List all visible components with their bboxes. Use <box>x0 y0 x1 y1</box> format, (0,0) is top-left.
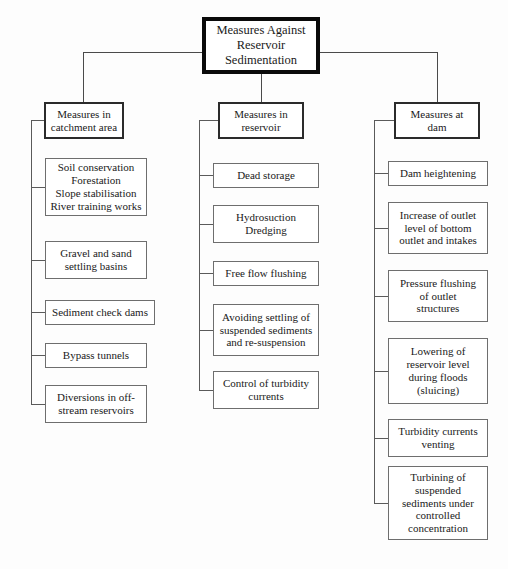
leaf-avoiding-settling-of-suspended-sediments: Avoiding settling of suspended sediments… <box>213 304 319 356</box>
branch-3-stub-4 <box>374 371 388 372</box>
branch-2-spine-entry <box>199 120 218 121</box>
leaf-bypass-tunnels: Bypass tunnels <box>45 343 147 368</box>
branch-header-label: Measures at dam <box>411 108 464 134</box>
trunk-left-horizontal <box>83 52 202 53</box>
leaf-turbidity-currents-venting: Turbidity currents venting <box>388 419 488 457</box>
leaf-free-flow-flushing: Free flow flushing <box>213 261 319 286</box>
root-node-label: Measures Against Reservoir Sedimentation <box>216 23 305 67</box>
trunk-right-horizontal <box>320 52 438 53</box>
trunk-left-vertical <box>83 52 84 102</box>
leaf-label: Pressure flushing of outlet structures <box>400 277 476 316</box>
leaf-gravel-and-sand-settling-basins: Gravel and sand settling basins <box>45 241 147 279</box>
leaf-dead-storage: Dead storage <box>213 163 319 188</box>
leaf-turbining-of-suspended-sediments: Turbining of suspended sediments under c… <box>388 466 488 540</box>
leaf-label: Sediment check dams <box>52 306 148 319</box>
leaf-label: Diversions in off- stream reservoirs <box>57 391 135 417</box>
branch-1-stub-4 <box>31 355 45 356</box>
branch-3-spine-entry <box>374 120 394 121</box>
leaf-label: Turbining of suspended sediments under c… <box>402 471 474 536</box>
branch-2-stub-3 <box>199 273 213 274</box>
branch-1-spine <box>31 120 32 405</box>
branch-2-stub-1 <box>199 175 213 176</box>
branch-header-label: Measures in reservoir <box>234 108 287 134</box>
branch-1-stub-2 <box>31 260 45 261</box>
leaf-label: Soil conservation Forestation Slope stab… <box>50 161 141 213</box>
branch-3-stub-3 <box>374 296 388 297</box>
branch-2-stub-2 <box>199 224 213 225</box>
branch-1-spine-entry <box>31 120 44 121</box>
branch-3-spine <box>374 120 375 504</box>
leaf-label: Avoiding settling of suspended sediments… <box>220 311 313 350</box>
branch-1-stub-5 <box>31 404 45 405</box>
leaf-label: Bypass tunnels <box>63 349 129 362</box>
branch-3-stub-2 <box>374 228 388 229</box>
branch-3-stub-6 <box>374 503 388 504</box>
leaf-diversions-in-off-stream-reservoirs: Diversions in off- stream reservoirs <box>45 385 147 423</box>
branch-3-stub-5 <box>374 438 388 439</box>
branch-header-measures-at-dam: Measures at dam <box>394 102 480 139</box>
leaf-pressure-flushing-of-outlet-structures: Pressure flushing of outlet structures <box>388 270 488 322</box>
leaf-label: Dead storage <box>237 169 295 182</box>
leaf-label: Increase of outlet level of bottom outle… <box>399 209 477 248</box>
leaf-increase-of-outlet-level: Increase of outlet level of bottom outle… <box>388 202 488 254</box>
branch-2-stub-5 <box>199 390 213 391</box>
leaf-dam-heightening: Dam heightening <box>388 161 488 186</box>
leaf-hydrosuction-dredging: Hydrosuction Dredging <box>213 205 319 243</box>
leaf-soil-conservation: Soil conservation Forestation Slope stab… <box>45 158 147 216</box>
leaf-control-of-turbidity-currents: Control of turbidity currents <box>213 371 319 409</box>
branch-header-measures-in-catchment-area: Measures in catchment area <box>44 102 124 139</box>
leaf-label: Turbidity currents venting <box>398 425 477 451</box>
leaf-label: Hydrosuction Dredging <box>236 211 296 237</box>
flowchart-diagram: Measures Against Reservoir Sedimentation… <box>0 0 508 569</box>
branch-1-stub-1 <box>31 187 45 188</box>
leaf-label: Control of turbidity currents <box>223 377 309 403</box>
branch-header-measures-in-reservoir: Measures in reservoir <box>218 102 304 139</box>
leaf-sediment-check-dams: Sediment check dams <box>45 300 155 325</box>
branch-2-stub-4 <box>199 330 213 331</box>
root-node-measures-against-reservoir-sedimentation: Measures Against Reservoir Sedimentation <box>202 17 320 74</box>
branch-1-stub-3 <box>31 312 45 313</box>
trunk-center-vertical <box>261 74 262 102</box>
leaf-label: Gravel and sand settling basins <box>60 247 131 273</box>
branch-3-stub-1 <box>374 173 388 174</box>
branch-header-label: Measures in catchment area <box>51 108 117 134</box>
leaf-lowering-of-reservoir-level-during-floods: Lowering of reservoir level during flood… <box>388 338 488 404</box>
leaf-label: Lowering of reservoir level during flood… <box>406 345 469 397</box>
branch-2-spine <box>199 120 200 391</box>
leaf-label: Free flow flushing <box>225 267 306 280</box>
leaf-label: Dam heightening <box>400 167 476 180</box>
trunk-right-vertical <box>437 52 438 102</box>
